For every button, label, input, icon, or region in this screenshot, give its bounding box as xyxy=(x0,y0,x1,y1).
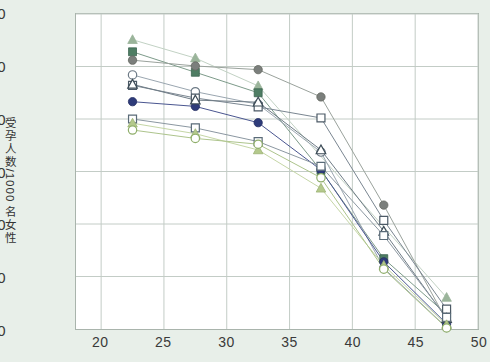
y-tick-label: 300 xyxy=(0,163,6,180)
data-point-marker xyxy=(128,35,138,44)
x-tick-label: 25 xyxy=(138,334,188,350)
data-point-marker xyxy=(128,71,136,79)
data-point-marker xyxy=(443,305,451,313)
data-point-marker xyxy=(191,62,199,70)
x-tick-label: 40 xyxy=(328,334,378,350)
data-point-marker xyxy=(191,134,199,142)
data-point-marker xyxy=(128,126,136,134)
data-point-marker xyxy=(128,56,136,64)
data-point-marker xyxy=(129,48,137,56)
x-tick-label: 20 xyxy=(75,334,125,350)
data-point-marker xyxy=(442,324,450,332)
x-tick-label: 50 xyxy=(454,334,490,350)
data-point-marker xyxy=(380,232,388,240)
chart-container: 受孕人数/1000 名女性 0100200300400500600 202530… xyxy=(0,0,490,362)
data-point-marker xyxy=(317,114,325,122)
data-point-marker xyxy=(128,98,136,106)
data-point-marker xyxy=(317,162,325,170)
x-tick-label: 45 xyxy=(391,334,441,350)
data-point-marker xyxy=(254,65,262,73)
y-tick-label: 200 xyxy=(0,216,6,233)
x-tick-label: 35 xyxy=(265,334,315,350)
data-point-marker xyxy=(254,140,262,148)
data-point-marker xyxy=(254,119,262,127)
y-tick-label: 400 xyxy=(0,110,6,127)
data-point-marker xyxy=(380,265,388,273)
y-tick-label: 0 xyxy=(0,322,6,339)
y-tick-label: 500 xyxy=(0,57,6,74)
data-point-marker xyxy=(316,183,326,192)
data-point-marker xyxy=(317,93,325,101)
data-point-marker xyxy=(317,174,325,182)
data-point-marker xyxy=(254,89,262,97)
data-point-marker xyxy=(380,216,388,224)
plot-area xyxy=(75,13,479,330)
series-layer xyxy=(76,14,478,329)
y-tick-label: 100 xyxy=(0,269,6,286)
data-point-marker xyxy=(380,201,388,209)
x-tick-label: 30 xyxy=(202,334,252,350)
y-tick-label: 600 xyxy=(0,5,6,22)
